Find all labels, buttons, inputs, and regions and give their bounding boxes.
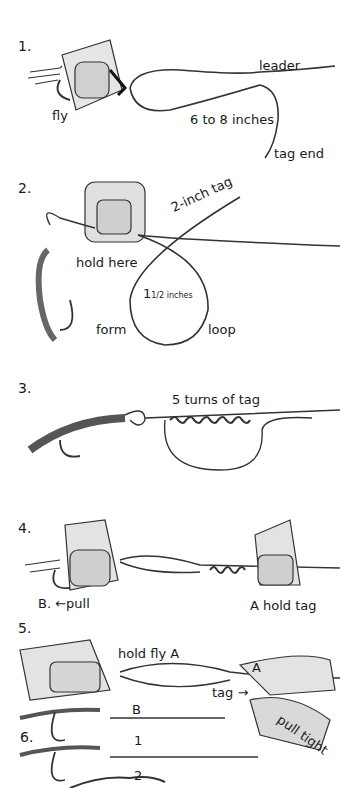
step4-illustration — [25, 520, 340, 590]
step1-fly-illustration — [28, 40, 125, 110]
step-4-number: 4. — [18, 520, 31, 536]
tag-end-label: tag end — [274, 146, 324, 161]
form-label: form — [96, 322, 126, 337]
loop-label: loop — [208, 322, 236, 337]
hold-here-label: hold here — [76, 255, 137, 270]
five-turns-label: 5 turns of tag — [172, 392, 260, 407]
tag-arrow-label: tag → — [212, 685, 248, 700]
step-6-number: 6. — [20, 729, 33, 745]
b-pull-label: B. ←pull — [38, 596, 90, 611]
step-5-number: 5. — [18, 620, 31, 636]
length-label: 6 to 8 inches — [190, 112, 274, 127]
fly-label: fly — [52, 108, 68, 123]
leader-label: leader — [259, 58, 300, 73]
a-hold-tag-label: A hold tag — [250, 598, 317, 613]
hold-fly-a-label: hold fly A — [118, 646, 179, 661]
variant-2-label: 2 — [134, 768, 142, 783]
a-label: A — [252, 660, 261, 675]
step-3-number: 3. — [18, 380, 31, 396]
step3-illustration — [30, 410, 340, 470]
loop-size-frac: 1/2 inches — [151, 291, 192, 300]
b-label: B — [132, 702, 141, 717]
loop-size-label: 11/2 inches — [143, 286, 193, 301]
step-2-number: 2. — [18, 180, 31, 196]
variant-1-label: 1 — [134, 733, 142, 748]
step-1-number: 1. — [18, 38, 31, 54]
